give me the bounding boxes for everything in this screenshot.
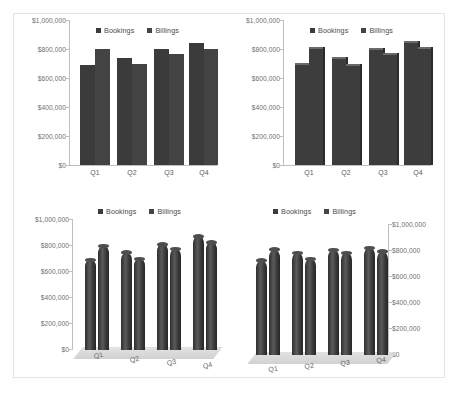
- y-tick-label-5: $1,000,000: [35, 216, 69, 223]
- x-tick-label-q3: Q3: [164, 169, 173, 176]
- bar-q3-billings[interactable]: [170, 249, 181, 350]
- bar-q3-bookings[interactable]: [157, 244, 168, 350]
- y-tick-label-1: $200,000: [392, 325, 420, 332]
- y-tick-label-4: $800,000: [41, 242, 69, 249]
- y-tick-2: [280, 107, 283, 108]
- y-tick-label-2: $400,000: [252, 104, 280, 111]
- y-tick-label-1: $200,000: [38, 133, 66, 140]
- bar-q1-billings[interactable]: [98, 246, 109, 350]
- x-tick-label-q2: Q2: [129, 355, 140, 364]
- chart-top-left[interactable]: Bookings Billings $0 $200,000 $400,000 $…: [22, 20, 222, 194]
- y-tick-label-4: $800,000: [38, 46, 66, 53]
- x-tick-label-q2: Q2: [341, 169, 350, 176]
- y-tick-2: [66, 107, 69, 108]
- y-tick-label-2: $400,000: [41, 294, 69, 301]
- y-tick-label-1: $200,000: [252, 133, 280, 140]
- y-tick-0: [69, 349, 72, 350]
- bar-q4-billings[interactable]: [377, 252, 388, 356]
- y-tick-label-0: $0: [61, 346, 69, 353]
- y-tick-3: [280, 78, 283, 79]
- chart-bottom-left[interactable]: Bookings Billings $0 $200,000 $400,000 $…: [22, 202, 222, 377]
- legend-item-bookings: Bookings: [98, 207, 136, 216]
- bar-q3-billings[interactable]: [341, 253, 352, 355]
- y-tick-label-1: $200,000: [41, 320, 69, 327]
- y-tick-0: [280, 165, 283, 166]
- plot-area: [284, 20, 431, 165]
- y-tick-label-0: $0: [58, 162, 66, 169]
- y-tick-label-0: $0: [272, 162, 280, 169]
- screenshot-root: Bookings Billings $0 $200,000 $400,000 $…: [0, 0, 461, 399]
- x-tick-label-q2: Q2: [127, 169, 136, 176]
- bar-q4-billings[interactable]: [204, 49, 218, 165]
- bar-q3-billings[interactable]: [169, 54, 184, 165]
- bar-q2-billings[interactable]: [346, 66, 360, 165]
- y-tick-label-5: $1,000,000: [246, 17, 280, 24]
- bar-q1-billings[interactable]: [269, 250, 280, 355]
- bar-q1-billings[interactable]: [95, 49, 110, 165]
- x-axis-line: [69, 165, 217, 166]
- plot-area: [70, 20, 217, 165]
- plot-area: [73, 219, 221, 350]
- legend-item-billings: Billings: [149, 207, 181, 216]
- y-tick-label-3: $600,000: [38, 75, 66, 82]
- bar-q4-billings[interactable]: [206, 242, 217, 350]
- legend: Bookings Billings: [273, 207, 356, 216]
- legend-item-bookings: Bookings: [273, 207, 311, 216]
- y-tick-3: [69, 271, 72, 272]
- x-tick-label-q4: Q4: [202, 361, 213, 370]
- y-tick-4: [69, 245, 72, 246]
- y-tick-0: [66, 165, 69, 166]
- y-tick-label-4: $800,000: [252, 46, 280, 53]
- y-tick-label-5: $1,000,000: [392, 221, 426, 228]
- y-tick-5: [69, 219, 72, 220]
- bar-q1-bookings[interactable]: [256, 261, 267, 356]
- y-tick-1: [69, 323, 72, 324]
- x-tick-label-q4: Q4: [376, 356, 386, 364]
- bar-q1-billings[interactable]: [309, 49, 323, 165]
- bar-q1-bookings[interactable]: [80, 65, 95, 165]
- y-tick-1: [280, 136, 283, 137]
- y-tick-label-4: $800,000: [392, 247, 420, 254]
- x-tick-label-q1: Q1: [90, 169, 99, 176]
- bar-q2-bookings[interactable]: [332, 59, 346, 165]
- y-tick-label-5: $1,000,000: [32, 17, 66, 24]
- chart-bottom-right[interactable]: Bookings Billings $0 $200,000 $400,000 $…: [236, 202, 436, 377]
- y-tick-label-3: $600,000: [392, 273, 420, 280]
- bar-q4-bookings[interactable]: [404, 43, 418, 165]
- bar-q4-bookings[interactable]: [364, 248, 375, 355]
- legend-label-billings: Billings: [157, 207, 181, 216]
- legend-label-bookings: Bookings: [281, 207, 311, 216]
- y-tick-4: [66, 49, 69, 50]
- chart-top-right[interactable]: Bookings Billings $0 $200,000 $400,000 $…: [236, 20, 436, 194]
- legend-swatch-billings-icon: [149, 209, 154, 214]
- bar-q2-bookings[interactable]: [292, 253, 303, 355]
- bar-q2-bookings[interactable]: [121, 253, 132, 351]
- bar-q1-bookings[interactable]: [85, 260, 96, 350]
- bar-q1-bookings[interactable]: [295, 65, 309, 165]
- legend-swatch-bookings-icon: [98, 209, 103, 214]
- x-tick-label-q1: Q1: [304, 169, 313, 176]
- x-tick-label-q3: Q3: [340, 359, 350, 367]
- bar-q4-billings[interactable]: [418, 49, 431, 165]
- y-axis-labels: $0 $200,000 $400,000 $600,000 $800,000 $…: [22, 219, 69, 349]
- x-tick-label-q3: Q3: [166, 358, 177, 367]
- bar-q2-bookings[interactable]: [117, 58, 132, 165]
- bar-q2-billings[interactable]: [305, 259, 316, 355]
- bar-q3-billings[interactable]: [383, 55, 397, 165]
- x-tick-label-q1: Q1: [268, 365, 278, 373]
- bar-q3-bookings[interactable]: [369, 50, 383, 165]
- bar-q4-bookings[interactable]: [193, 236, 204, 350]
- bar-q2-billings[interactable]: [134, 259, 145, 350]
- x-tick-label-q2: Q2: [304, 362, 314, 370]
- bar-q3-bookings[interactable]: [154, 49, 169, 165]
- y-tick-label-2: $400,000: [392, 299, 420, 306]
- content-frame: Bookings Billings $0 $200,000 $400,000 $…: [13, 13, 445, 378]
- bar-q3-bookings[interactable]: [328, 250, 339, 355]
- bar-q4-bookings[interactable]: [189, 43, 204, 166]
- x-tick-label-q3: Q3: [378, 169, 387, 176]
- bar-q2-billings[interactable]: [132, 64, 147, 165]
- y-tick-3: [66, 78, 69, 79]
- legend-swatch-billings-icon: [324, 209, 329, 214]
- y-axis-labels: $0 $200,000 $400,000 $600,000 $800,000 $…: [392, 224, 438, 354]
- legend-item-billings: Billings: [324, 207, 356, 216]
